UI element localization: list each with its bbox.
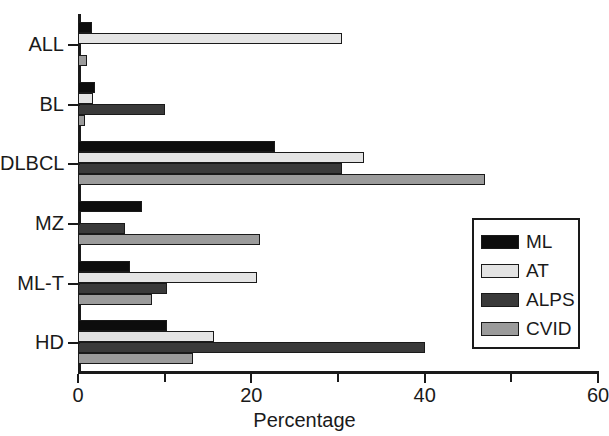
y-axis-label-dlbcl: DLBCL <box>0 152 64 174</box>
bar-at-dlbcl <box>78 152 364 163</box>
legend-swatch-ml <box>481 235 519 249</box>
legend-label-cvid: CVID <box>526 319 571 339</box>
bar-alps-mz <box>78 223 125 234</box>
y-axis-label-hd: HD <box>0 331 64 353</box>
y-tick-mz <box>68 223 80 225</box>
bar-ml-bl <box>78 82 95 93</box>
y-tick-hd <box>68 342 80 344</box>
x-axis-title: Percentage <box>0 408 609 432</box>
x-tick-50 <box>510 374 512 382</box>
bar-cvid-mz <box>78 234 260 245</box>
bar-at-bl <box>78 93 93 104</box>
legend-label-alps: ALPS <box>526 290 575 310</box>
bar-cvid-dlbcl <box>78 174 485 185</box>
bar-at-ml-t <box>78 272 257 283</box>
bar-chart: ALLBLDLBCLMZML-THD0204060 Percentage ML … <box>0 0 609 436</box>
x-tick-label-20: 20 <box>240 383 262 407</box>
x-tick-label-40: 40 <box>414 383 436 407</box>
y-tick-bl <box>68 104 80 106</box>
x-tick-0 <box>77 374 79 383</box>
legend-item-cvid: CVID <box>474 314 578 343</box>
y-tick-ml-t <box>68 283 80 285</box>
y-axis-label-bl: BL <box>0 93 64 115</box>
x-tick-60 <box>597 374 599 383</box>
bar-ml-dlbcl <box>78 141 275 152</box>
bar-at-all <box>78 33 342 44</box>
y-axis-label-all: ALL <box>0 33 64 55</box>
bar-alps-hd <box>78 342 425 353</box>
y-axis-label-ml-t: ML-T <box>0 272 64 294</box>
bar-alps-ml-t <box>78 283 167 294</box>
bar-cvid-bl <box>78 115 85 126</box>
x-tick-20 <box>250 374 252 383</box>
x-tick-label-60: 60 <box>587 383 609 407</box>
legend-item-at: AT <box>474 256 578 285</box>
bar-alps-dlbcl <box>78 163 342 174</box>
bar-cvid-all <box>78 55 87 66</box>
bar-cvid-hd <box>78 353 193 364</box>
chart-legend: ML AT ALPS CVID <box>472 218 580 349</box>
x-tick-label-0: 0 <box>72 383 83 407</box>
legend-swatch-at <box>481 264 519 278</box>
x-tick-40 <box>424 374 426 383</box>
y-tick-dlbcl <box>68 163 80 165</box>
y-tick-all <box>68 44 80 46</box>
legend-swatch-cvid <box>481 322 519 336</box>
bar-at-hd <box>78 331 214 342</box>
bar-ml-hd <box>78 320 167 331</box>
x-tick-10 <box>164 374 166 382</box>
legend-label-ml: ML <box>526 232 552 252</box>
legend-swatch-alps <box>481 293 519 307</box>
x-tick-30 <box>337 374 339 382</box>
bar-cvid-ml-t <box>78 294 152 305</box>
bar-ml-ml-t <box>78 261 130 272</box>
bar-ml-all <box>78 22 92 33</box>
legend-label-at: AT <box>526 261 549 281</box>
y-axis-label-mz: MZ <box>0 212 64 234</box>
bar-ml-mz <box>78 201 142 212</box>
legend-item-alps: ALPS <box>474 285 578 314</box>
legend-item-ml: ML <box>474 227 578 256</box>
bar-alps-bl <box>78 104 165 115</box>
